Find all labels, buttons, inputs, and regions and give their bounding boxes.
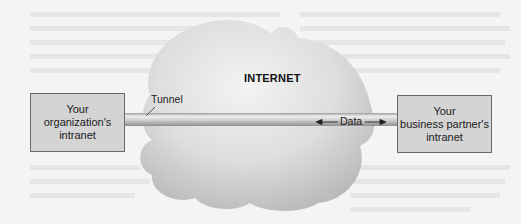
business-partner-intranet-box: Your business partner's intranet [397,95,492,153]
partner-intranet-line-3: intranet [426,131,463,144]
internet-label: INTERNET [244,72,301,84]
tunnel-label: Tunnel [151,93,183,105]
organization-intranet-line-1: Your [66,103,88,116]
organization-intranet-line-3: intranet [59,129,96,142]
organization-intranet-box: Your organization's intranet [30,93,125,152]
data-label: Data [340,115,362,127]
organization-intranet-line-2: organization's [44,116,112,129]
vpn-diagram: INTERNET Tunnel Data Your organization's… [0,0,521,224]
partner-intranet-line-2: business partner's [400,118,489,131]
partner-intranet-line-1: Your [433,105,455,118]
